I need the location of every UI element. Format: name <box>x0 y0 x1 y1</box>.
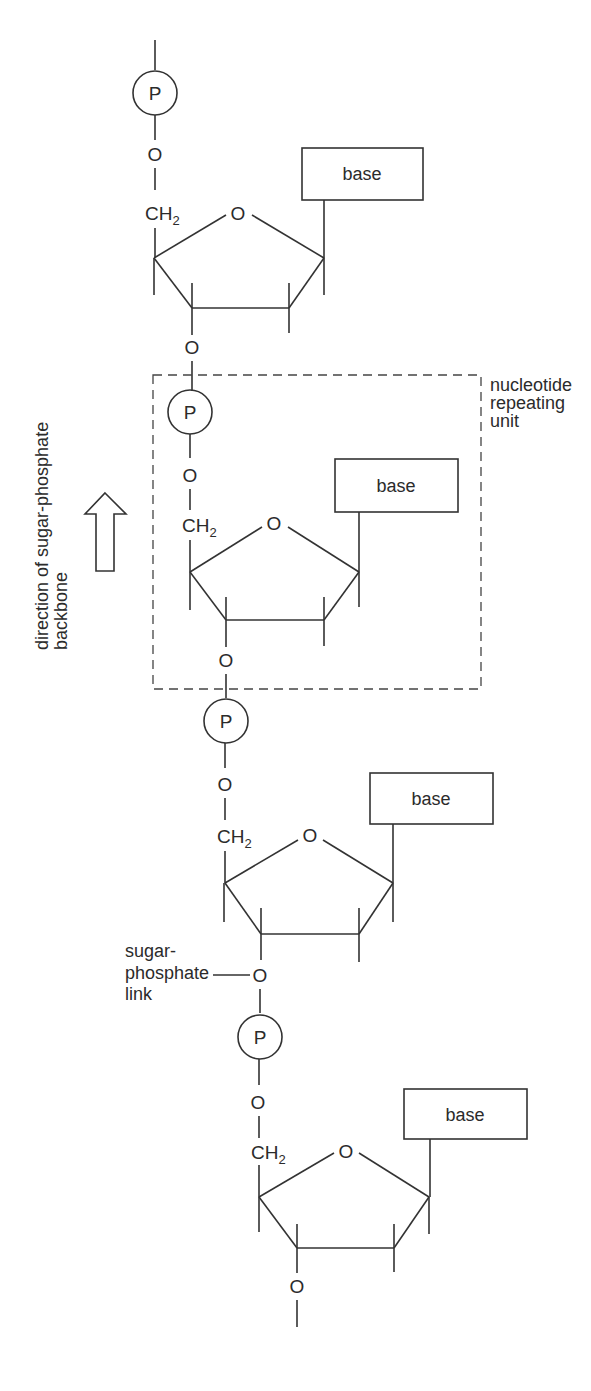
oxygen-atom: O <box>183 465 198 486</box>
ch2-group: CH2 <box>182 515 217 540</box>
svg-text:direction of sugar-phosphate: direction of sugar-phosphate <box>32 422 52 650</box>
base-box: base <box>404 1089 527 1139</box>
direction-label: direction of sugar-phosphate backbone <box>32 422 71 650</box>
base-box: base <box>302 148 423 200</box>
oxygen-atom: O <box>290 1276 305 1297</box>
svg-text:P: P <box>149 83 162 104</box>
svg-text:P: P <box>184 402 197 423</box>
oxygen-atom: O <box>218 774 233 795</box>
phosphate-circle: P <box>133 71 177 115</box>
svg-text:sugar-: sugar- <box>125 941 176 961</box>
svg-text:backbone: backbone <box>51 572 71 650</box>
phosphate-circle: P <box>204 699 248 743</box>
svg-text:O: O <box>267 513 282 534</box>
svg-text:O: O <box>231 203 246 224</box>
svg-text:base: base <box>376 476 415 496</box>
oxygen-atom: O <box>185 337 200 358</box>
svg-text:nucleotide: nucleotide <box>490 375 572 395</box>
phosphate-circle: P <box>238 1015 282 1059</box>
oxygen-atom: O <box>251 1092 266 1113</box>
svg-text:P: P <box>254 1027 267 1048</box>
svg-text:O: O <box>303 825 318 846</box>
base-box: base <box>370 773 493 824</box>
oxygen-atom: O <box>253 965 268 986</box>
nucleotide-unit-3: P O CH2 O base O <box>204 699 493 1013</box>
svg-text:repeating: repeating <box>490 393 565 413</box>
oxygen-atom: O <box>148 144 163 165</box>
svg-text:base: base <box>342 164 381 184</box>
direction-arrow-icon <box>85 493 126 571</box>
nucleotide-unit-1: P O CH2 O base O <box>133 40 423 391</box>
svg-text:O: O <box>339 1141 354 1162</box>
ch2-group: CH2 <box>251 1142 286 1167</box>
oxygen-atom: O <box>219 650 234 671</box>
ch2-group: CH2 <box>145 203 180 228</box>
nucleotide-unit-4: P O CH2 O base O <box>238 1015 527 1327</box>
sugar-phosphate-link-label: sugar- phosphate link <box>125 941 250 1004</box>
base-box: base <box>335 459 458 512</box>
svg-text:P: P <box>220 711 233 732</box>
nucleotide-unit-2: P O CH2 O base O <box>168 390 458 698</box>
phosphate-circle: P <box>168 390 212 434</box>
svg-text:base: base <box>445 1105 484 1125</box>
dna-backbone-diagram: P O CH2 O base O nucleotide re <box>0 0 591 1391</box>
ch2-group: CH2 <box>217 826 252 851</box>
repeating-unit-label: nucleotide repeating unit <box>490 375 572 431</box>
svg-text:unit: unit <box>490 411 519 431</box>
svg-text:base: base <box>411 789 450 809</box>
svg-text:phosphate: phosphate <box>125 963 209 983</box>
svg-text:link: link <box>125 984 153 1004</box>
